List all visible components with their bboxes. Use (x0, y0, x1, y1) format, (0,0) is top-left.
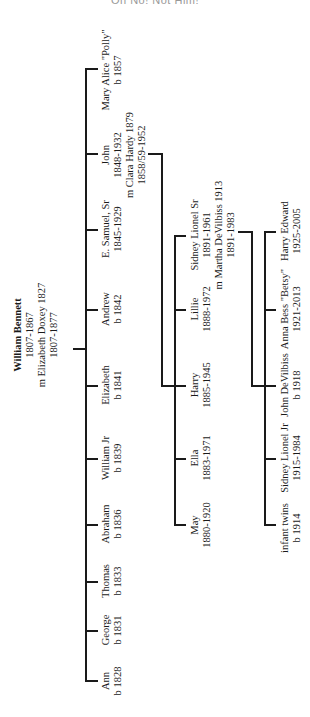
tick-thomas (85, 581, 98, 583)
person-name: May (189, 494, 201, 556)
person-andrew: Andrew b 1842 (100, 278, 124, 340)
person-name: Sidney Lionel Jr (279, 413, 291, 503)
person-name: Andrew (100, 278, 112, 340)
person-harry: Harry 1885-1945 (189, 354, 213, 416)
person-sidney-jr: Sidney Lionel Jr 1915-1984 (279, 413, 303, 503)
person-samuel: E. Samuel, Sr 1845-1929 (100, 174, 124, 284)
john-family-connector-vertical (161, 153, 163, 386)
tick-mary-alice (85, 68, 98, 70)
person-name: E. Samuel, Sr (100, 174, 112, 284)
tick-harry-edward (264, 231, 276, 233)
person-dates: b 1828 (112, 652, 124, 710)
tick-lillie (174, 309, 186, 311)
tick-infant-twins (264, 524, 276, 526)
root-couple-label: William Bennett 1807-1867 m Elizabeth Do… (12, 250, 60, 420)
person-name: Abraham (100, 491, 112, 557)
person-may: May 1880-1920 (189, 494, 213, 556)
root-name: William Bennett (12, 250, 24, 420)
person-name: Ella (189, 427, 201, 489)
tick-george (85, 630, 98, 632)
tick-william-jr (85, 458, 98, 460)
gen2-spine (174, 235, 176, 526)
person-dates: 1888-1972 (201, 278, 213, 340)
person-name: William Jr (100, 422, 112, 494)
sidney-family-connector-vertical (251, 231, 253, 386)
tick-harry (174, 385, 186, 387)
person-name: Ann (100, 652, 112, 710)
page-header-clipped: Oh No! Not Him! (0, 0, 310, 6)
person-george: George b 1831 (100, 601, 124, 659)
person-dates: b 1842 (112, 278, 124, 340)
person-william-jr: William Jr b 1839 (100, 422, 124, 494)
gen3-spine (264, 231, 266, 525)
tick-sidney-jr (264, 458, 276, 460)
person-infant-twins: infant twins b 1914 (279, 493, 303, 563)
person-harry-edward: Harry Edward 1925-2005 (279, 190, 303, 272)
person-elizabeth: Elizabeth b 1841 (100, 352, 124, 418)
person-dates: 1915-1984 (291, 413, 303, 503)
person-name: George (100, 601, 112, 659)
root-spouse-dates: 1807-1877 (48, 250, 60, 420)
person-name: Lillie (189, 278, 201, 340)
person-abraham: Abraham b 1836 (100, 491, 124, 557)
person-dates: b 1914 (291, 493, 303, 563)
tick-andrew (85, 309, 98, 311)
tick-ella (174, 458, 186, 460)
person-ann: Ann b 1828 (100, 652, 124, 710)
person-name: Harry Edward (279, 190, 291, 272)
person-name: infant twins (279, 493, 291, 563)
person-dates: b 1831 (112, 601, 124, 659)
person-marriage: m Clara Hardy 1879 (124, 95, 136, 215)
person-dates: 1883-1971 (201, 427, 213, 489)
person-dates: b 1839 (112, 422, 124, 494)
spouse-dates: 1891-1983 (225, 170, 237, 300)
root-dates: 1807-1867 (24, 250, 36, 420)
person-name: Elizabeth (100, 352, 112, 418)
person-dates: 1925-2005 (291, 190, 303, 272)
tick-may (174, 524, 186, 526)
person-dates: 1885-1945 (201, 354, 213, 416)
tick-anna-bess (264, 309, 276, 311)
person-ella: Ella 1883-1971 (189, 427, 213, 489)
person-dates: b 1841 (112, 352, 124, 418)
spouse-dates: 1858/59-1952 (136, 95, 148, 215)
person-lillie: Lillie 1888-1972 (189, 278, 213, 340)
person-dates: 1845-1929 (112, 174, 124, 284)
person-marriage: m Martha DeVilbiss 1913 (213, 170, 225, 300)
person-name: Harry (189, 354, 201, 416)
person-dates: 1880-1920 (201, 494, 213, 556)
tick-ann (85, 680, 98, 682)
tick-sidney-sr (174, 235, 186, 237)
gen1-spine (85, 68, 87, 681)
person-dates: b 1836 (112, 491, 124, 557)
tick-john (85, 153, 98, 155)
tick-samuel (85, 229, 98, 231)
tick-john-devilbiss (264, 385, 276, 387)
tick-abraham (85, 524, 98, 526)
root-marriage: m Elizabeth Doxey 1827 (36, 250, 48, 420)
tick-elizabeth (85, 385, 98, 387)
